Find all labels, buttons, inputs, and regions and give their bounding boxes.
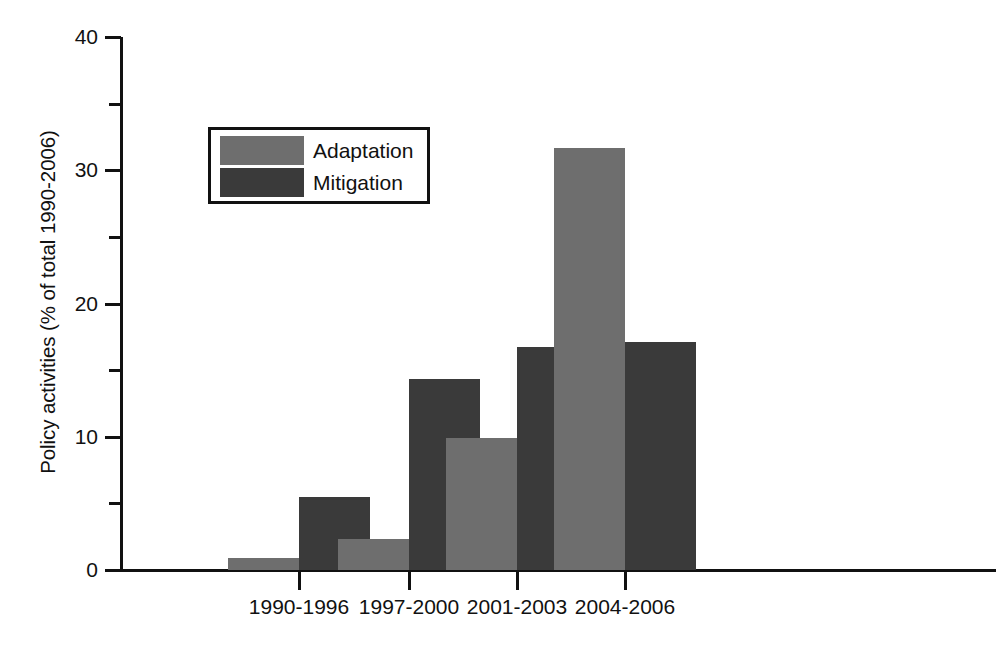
y-tick-major [105,569,121,572]
x-tick [408,572,411,590]
y-tick-major [105,436,121,439]
x-tick-label: 2004-2006 [540,595,710,619]
bar-chart-figure: Policy activities (% of total 1990-2006)… [0,0,996,653]
y-tick-minor [109,103,121,106]
legend-swatch-adaptation [220,136,304,165]
y-tick-label-wrap: 0 [30,559,98,580]
bar [338,539,409,570]
y-tick-label: 10 [40,426,98,447]
bar [625,342,696,570]
legend-item-mitigation: Mitigation [220,168,424,198]
y-tick-label-wrap: 30 [30,159,98,180]
y-tick-major [105,303,121,306]
y-tick-major [105,169,121,172]
bar [446,438,517,570]
y-tick-minor [109,236,121,239]
y-tick-label: 20 [40,293,98,314]
x-tick [624,572,627,590]
y-tick-label: 0 [40,559,98,580]
legend-label-adaptation: Adaptation [313,136,413,165]
y-tick-major [105,36,121,39]
x-tick [516,572,519,590]
y-tick-minor [109,369,121,372]
y-tick-label-wrap: 10 [30,426,98,447]
legend-label-mitigation: Mitigation [313,168,403,197]
bar [228,558,299,570]
legend-swatch-mitigation [220,168,304,197]
y-tick-label: 30 [40,159,98,180]
legend: Adaptation Mitigation [208,127,430,204]
y-tick-label-wrap: 20 [30,293,98,314]
y-tick-label: 40 [40,26,98,47]
x-tick [298,572,301,590]
y-tick-label-wrap: 40 [30,26,98,47]
legend-item-adaptation: Adaptation [220,136,424,166]
bar [554,148,625,570]
plot-area [123,37,996,570]
y-tick-minor [109,502,121,505]
